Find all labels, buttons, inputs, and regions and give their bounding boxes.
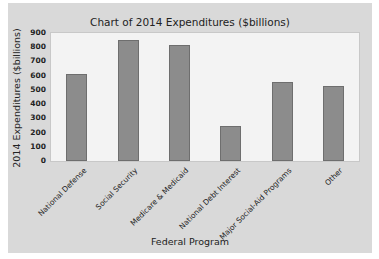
y-tick-label: 300 xyxy=(22,113,46,122)
x-tick-label: National Defense xyxy=(36,166,88,218)
y-tick-label: 100 xyxy=(22,141,46,150)
y-tick-label: 200 xyxy=(22,127,46,136)
x-axis-label: Federal Program xyxy=(8,236,372,247)
bar xyxy=(272,82,293,161)
y-tick-label: 700 xyxy=(22,56,46,65)
plot-area xyxy=(50,32,360,162)
y-tick-label: 900 xyxy=(22,28,46,37)
x-tick-label: Social Security xyxy=(94,166,140,212)
y-tick-label: 800 xyxy=(22,42,46,51)
y-tick-label: 0 xyxy=(22,156,46,165)
bar xyxy=(323,86,344,161)
y-axis-label: 2014 Expenditures ($billions) xyxy=(11,28,22,167)
bar xyxy=(220,126,241,161)
bar xyxy=(66,74,87,161)
y-tick-label: 400 xyxy=(22,99,46,108)
x-tick-label: Medicare & Medicaid xyxy=(129,166,191,228)
bar xyxy=(169,45,190,161)
y-tick-label: 600 xyxy=(22,70,46,79)
x-tick-label: Other xyxy=(323,166,344,187)
chart-panel: Chart of 2014 Expenditures ($billions) 2… xyxy=(8,3,372,253)
y-tick-label: 500 xyxy=(22,84,46,93)
bar xyxy=(118,40,139,161)
chart-title: Chart of 2014 Expenditures ($billions) xyxy=(8,16,372,28)
